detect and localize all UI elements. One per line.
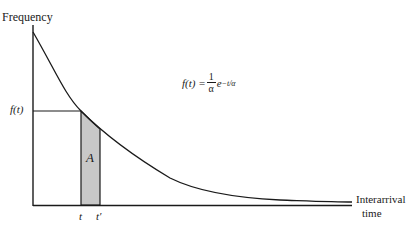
formula-fraction: 1 α	[207, 72, 216, 94]
formula-exponent: −t/α	[222, 79, 236, 88]
diagram-canvas	[0, 0, 415, 229]
density-formula: f(t) = 1 α e−t/α	[182, 72, 236, 94]
x-axis-label-line1: Interarrival	[356, 193, 405, 205]
area-label-a: A	[86, 150, 94, 166]
formula-denominator: α	[209, 83, 214, 94]
x-axis-label-line2: time	[362, 207, 382, 219]
formula-numerator: 1	[207, 72, 216, 83]
x-tick-t-prime: t′	[96, 210, 101, 222]
y-axis-label: Frequency	[2, 10, 53, 25]
formula-lhs: f(t) =	[182, 77, 206, 89]
x-tick-t: t	[79, 210, 82, 222]
y-tick-f-t: f(t)	[10, 103, 23, 115]
